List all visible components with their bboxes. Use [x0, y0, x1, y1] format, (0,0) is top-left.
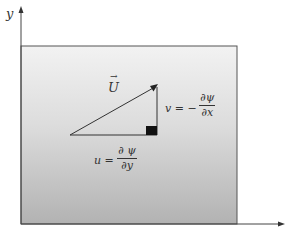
u-equation-lhs: u = [94, 154, 114, 167]
vector-symbol: U [108, 80, 119, 95]
vector-arrow-accent: → [110, 71, 118, 81]
v-numerator: ∂ψ [199, 92, 215, 104]
v-equation-lhs: v = − [165, 102, 197, 115]
v-equation-fraction: ∂ψ ∂x [199, 92, 215, 119]
x-axis-arrow-icon [278, 222, 285, 227]
v-denominator: ∂x [200, 107, 214, 119]
u-denominator: ∂y [120, 160, 134, 172]
y-axis-arrow-icon [19, 6, 24, 13]
y-axis-label: y [6, 6, 13, 21]
right-angle-marker [146, 126, 157, 135]
velocity-vector-label: → U [108, 80, 119, 95]
u-equation-fraction: ∂ ψ ∂y [117, 145, 137, 172]
u-numerator: ∂ ψ [117, 145, 137, 157]
diagram-canvas [0, 0, 296, 235]
